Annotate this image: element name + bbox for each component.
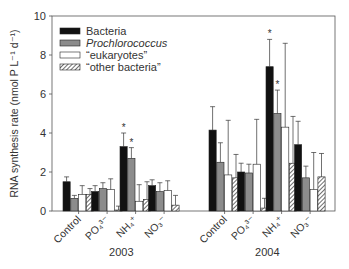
legend-label: Prochlorococcus <box>86 37 168 49</box>
bar <box>99 189 106 211</box>
y-tick-label: 4 <box>40 127 46 139</box>
legend-swatch <box>60 40 80 46</box>
y-axis-label: RNA synthesis rate (nmol P L⁻¹ d⁻¹) <box>8 29 20 197</box>
y-tick-label: 10 <box>34 10 46 22</box>
x-tick-label: NO₃⁻ <box>142 213 169 240</box>
bar <box>253 164 260 211</box>
x-tick-label: NO₃⁻ <box>288 213 315 240</box>
x-tick-label: NH₄⁺ <box>114 213 140 239</box>
bar <box>209 130 216 211</box>
bar <box>310 190 317 211</box>
bar <box>128 158 135 211</box>
plot-area: 0246810RNA synthesis rate (nmol P L⁻¹ d⁻… <box>8 10 335 258</box>
y-tick-label: 6 <box>40 88 46 100</box>
bar <box>302 178 309 211</box>
bar <box>245 173 252 211</box>
bar <box>318 177 325 211</box>
bar <box>282 127 289 211</box>
bar <box>136 201 143 211</box>
legend-swatch <box>60 28 80 34</box>
bar <box>92 192 99 212</box>
bar <box>295 145 302 211</box>
bar <box>217 162 224 211</box>
bar <box>274 114 281 212</box>
bar <box>172 205 179 211</box>
x-tick-label: NH₄⁺ <box>260 213 286 239</box>
bar <box>107 190 114 211</box>
y-tick-label: 8 <box>40 49 46 61</box>
bar <box>225 175 232 211</box>
bar <box>266 67 273 211</box>
bar <box>238 172 245 211</box>
x-tick-label: Control <box>51 213 83 245</box>
bar <box>164 191 171 211</box>
group-label: 2003 <box>109 246 133 258</box>
legend-swatch <box>60 64 80 70</box>
legend-label: Bacteria <box>86 25 127 37</box>
y-tick-label: 2 <box>40 166 46 178</box>
x-tick-label: Control <box>197 213 229 245</box>
bar <box>63 182 70 211</box>
legend-label: “other bacteria” <box>86 61 161 73</box>
rna-synthesis-chart: 0246810RNA synthesis rate (nmol P L⁻¹ d⁻… <box>0 0 349 269</box>
significance-asterisk: * <box>275 79 279 90</box>
legend: BacteriaProchlorococcus“eukaryotes”“othe… <box>60 25 168 73</box>
x-tick-label: PO₄³⁻ <box>83 213 112 242</box>
bar <box>71 198 78 211</box>
bar <box>120 147 127 211</box>
x-tick-label: PO₄³⁻ <box>229 213 258 242</box>
significance-asterisk: * <box>129 137 133 148</box>
group-label: 2004 <box>255 246 279 258</box>
significance-asterisk: * <box>122 122 126 133</box>
significance-asterisk: * <box>268 28 272 39</box>
y-tick-label: 0 <box>40 205 46 217</box>
bar <box>79 194 86 211</box>
legend-swatch <box>60 52 80 58</box>
bar <box>149 186 156 211</box>
bar <box>156 192 163 212</box>
legend-label: “eukaryotes” <box>86 49 147 61</box>
